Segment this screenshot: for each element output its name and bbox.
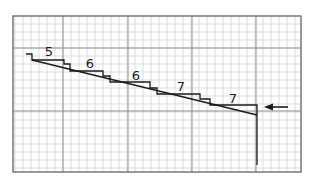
step-count-label: 7 bbox=[177, 79, 185, 94]
step-count-label: 6 bbox=[132, 68, 140, 83]
step-count-label: 5 bbox=[45, 44, 53, 59]
diagram-canvas: 56677 bbox=[0, 0, 312, 181]
step-count-label: 7 bbox=[229, 91, 237, 106]
staircase-diagram: 56677 bbox=[0, 0, 312, 181]
step-count-label: 6 bbox=[86, 56, 94, 71]
